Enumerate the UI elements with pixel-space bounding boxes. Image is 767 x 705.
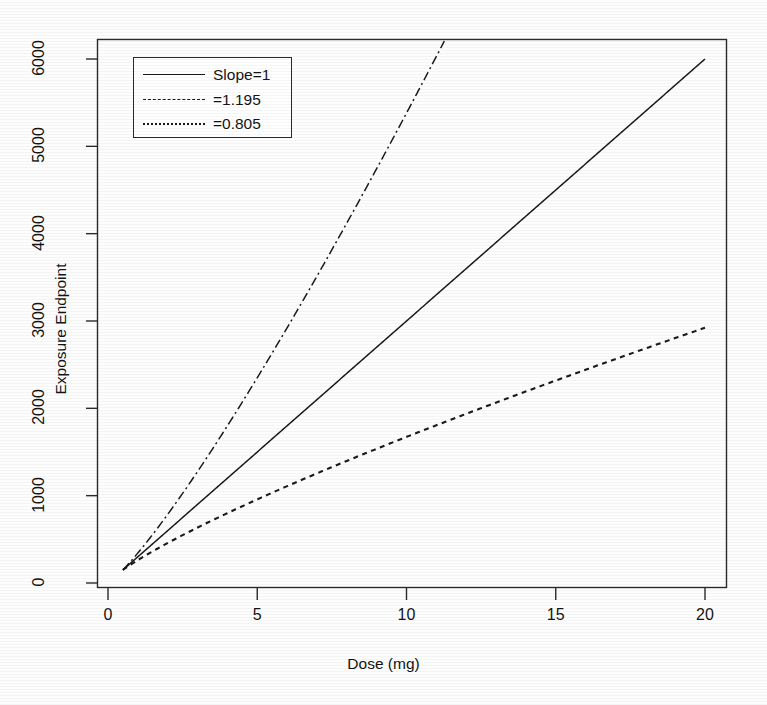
solid-line-key <box>143 69 205 81</box>
legend-label: =0.805 <box>213 115 261 133</box>
legend-entry-slope-1195: =1.195 <box>134 86 291 113</box>
series-line <box>123 328 705 570</box>
legend-entry-slope-1: Slope=1 <box>134 61 291 88</box>
plot-area <box>0 0 767 705</box>
legend-label: Slope=1 <box>213 66 270 84</box>
legend-entry-slope-0805: =0.805 <box>134 110 291 137</box>
legend-label: =1.195 <box>213 91 261 109</box>
dashed-line-key <box>143 118 205 130</box>
chart-figure: Dose (mg) Exposure Endpoint 05101520 010… <box>0 0 767 705</box>
dash-dot-line-key <box>143 94 205 106</box>
legend: Slope=1 =1.195 =0.805 <box>133 57 292 138</box>
